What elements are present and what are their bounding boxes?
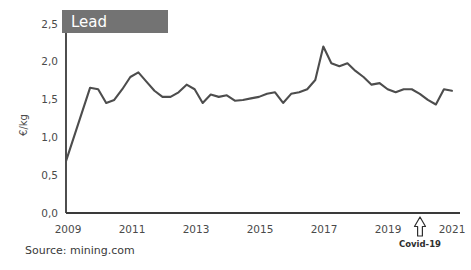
y-tick-label: 2,5: [41, 18, 58, 30]
lead-price-line-chart: 2,5 2,0 1,5 1,0 0,5 0,0 €/kg 2009 2011 2…: [0, 0, 471, 270]
y-tick-label: 1,5: [41, 93, 58, 105]
covid-annotation-label: Covid-19: [399, 239, 441, 249]
y-axis-title: €/kg: [18, 114, 29, 136]
x-tick-label: 2013: [183, 223, 210, 235]
x-tick-label: 2021: [439, 223, 466, 235]
y-tick-label: 2,0: [41, 55, 58, 67]
x-tick-label: 2017: [311, 223, 338, 235]
x-tick-label: 2011: [119, 223, 146, 235]
series-title-box: Lead: [62, 10, 168, 33]
y-tick-label: 0,0: [41, 207, 58, 219]
chart-figure: 2,5 2,0 1,5 1,0 0,5 0,0 €/kg 2009 2011 2…: [0, 0, 471, 270]
x-tick-label: 2019: [375, 223, 402, 235]
x-tick-label: 2009: [55, 223, 82, 235]
y-tick-label: 1,0: [41, 131, 58, 143]
y-tick-label: 0,5: [41, 169, 58, 181]
source-note: Source: mining.com: [25, 244, 135, 257]
series-title-label: Lead: [71, 13, 107, 31]
x-tick-label: 2015: [247, 223, 274, 235]
